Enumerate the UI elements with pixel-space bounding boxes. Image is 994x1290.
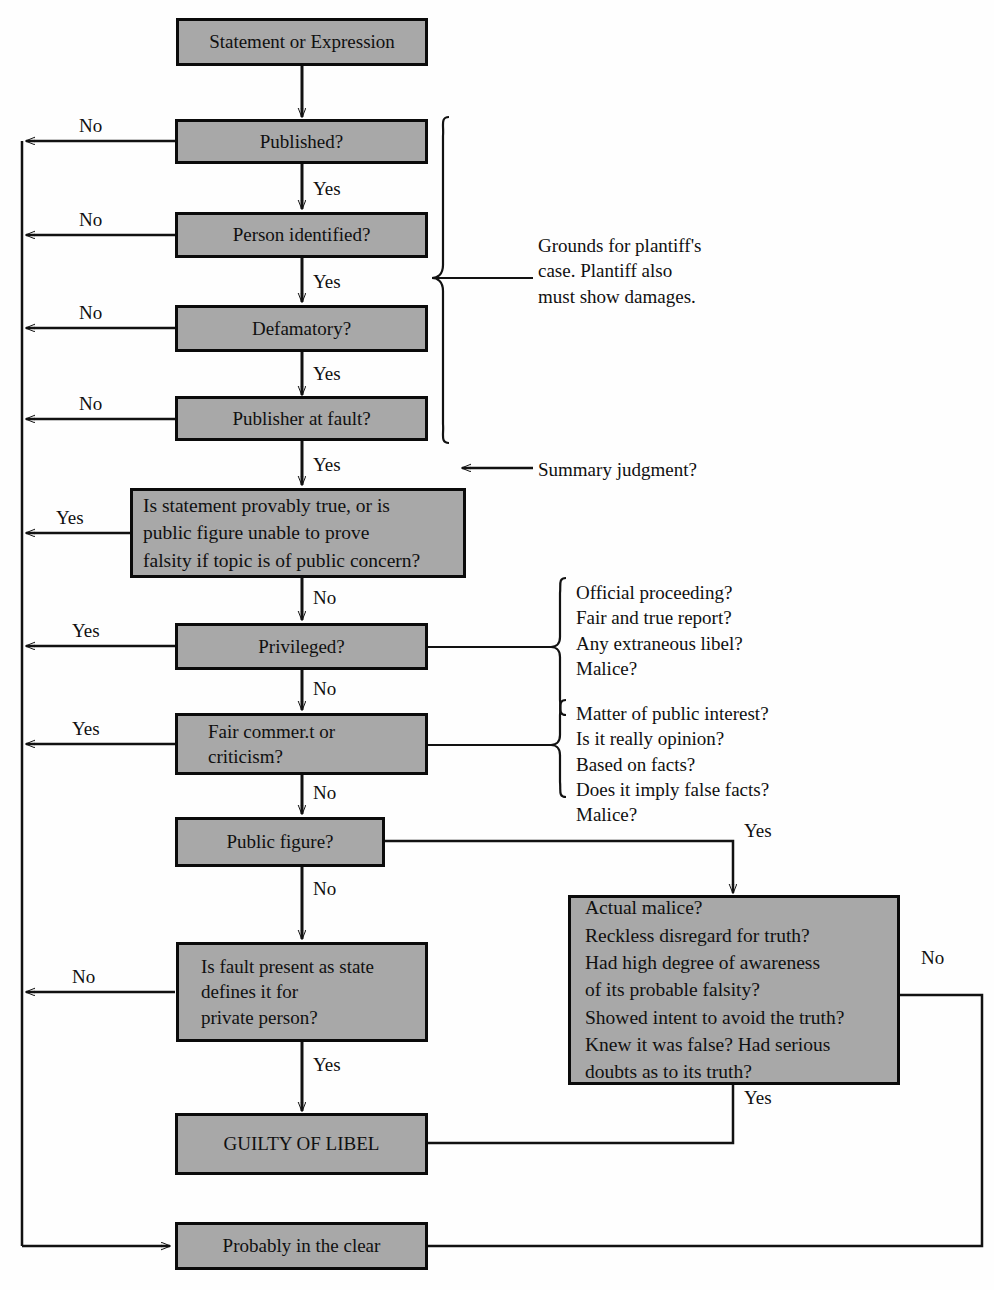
annotation-fair-comment-tests: Matter of public interest? Is it really … xyxy=(576,701,769,827)
node-publisher-at-fault[interactable]: Publisher at fault? xyxy=(175,396,428,441)
node-defamatory[interactable]: Defamatory? xyxy=(175,305,428,352)
edge-label-yes-person: Yes xyxy=(313,269,341,295)
edge-label-no-provably-true: No xyxy=(313,585,336,611)
edge-label-no-state-fault: No xyxy=(72,964,95,990)
node-public-figure-label: Public figure? xyxy=(216,829,343,854)
node-state-fault[interactable]: Is fault present as state defines it for… xyxy=(176,942,428,1042)
annotation-privileged-tests: Official proceeding? Fair and true repor… xyxy=(576,580,743,681)
edge-label-no-privileged: No xyxy=(313,676,336,702)
edge-label-no-public-figure: No xyxy=(313,876,336,902)
connector-lines xyxy=(0,0,994,1290)
annotation-summary-judgment: Summary judgment? xyxy=(538,457,697,482)
node-fair-comment-label: Fair commer.t or criticism? xyxy=(178,719,345,769)
node-publisher-at-fault-label: Publisher at fault? xyxy=(222,406,380,431)
edge-label-no-fair-comment: No xyxy=(313,780,336,806)
edge-label-yes-provably-true: Yes xyxy=(56,505,84,531)
node-actual-malice[interactable]: Actual malice? Reckless disregard for tr… xyxy=(568,895,900,1085)
edge-label-yes-published: Yes xyxy=(313,176,341,202)
node-fair-comment[interactable]: Fair commer.t or criticism? xyxy=(175,713,428,775)
node-published[interactable]: Published? xyxy=(175,119,428,164)
node-probably-clear[interactable]: Probably in the clear xyxy=(175,1222,428,1270)
edge-label-no-malice: No xyxy=(921,945,944,971)
edge-label-no-defamatory: No xyxy=(79,300,102,326)
node-provably-true[interactable]: Is statement provably true, or is public… xyxy=(130,488,466,578)
node-state-fault-label: Is fault present as state defines it for… xyxy=(179,954,384,1029)
flowchart-canvas: Statement or Expression Published? Perso… xyxy=(0,0,994,1290)
node-privileged-label: Privileged? xyxy=(248,634,355,659)
node-probably-clear-label: Probably in the clear xyxy=(213,1233,391,1258)
node-statement[interactable]: Statement or Expression xyxy=(176,18,428,66)
edge-label-yes-malice: Yes xyxy=(744,1085,772,1111)
edge-label-yes-privileged: Yes xyxy=(72,618,100,644)
edge-label-no-published: No xyxy=(79,113,102,139)
edge-label-yes-publisher: Yes xyxy=(313,452,341,478)
annotation-grounds: Grounds for plantiff's case. Plantiff al… xyxy=(538,233,702,309)
node-person-identified[interactable]: Person identified? xyxy=(175,212,428,258)
node-guilty-of-libel-label: GUILTY OF LIBEL xyxy=(214,1131,390,1156)
edge-label-yes-defamatory: Yes xyxy=(313,361,341,387)
node-provably-true-label: Is statement provably true, or is public… xyxy=(133,492,430,574)
edge-label-yes-fair-comment: Yes xyxy=(72,716,100,742)
node-published-label: Published? xyxy=(250,129,353,154)
node-person-identified-label: Person identified? xyxy=(223,222,381,247)
node-defamatory-label: Defamatory? xyxy=(242,316,361,341)
node-statement-label: Statement or Expression xyxy=(199,29,405,54)
edge-label-no-publisher: No xyxy=(79,391,102,417)
edge-label-no-person: No xyxy=(79,207,102,233)
node-guilty-of-libel[interactable]: GUILTY OF LIBEL xyxy=(175,1113,428,1175)
node-public-figure[interactable]: Public figure? xyxy=(175,817,385,867)
node-privileged[interactable]: Privileged? xyxy=(175,623,428,670)
node-actual-malice-label: Actual malice? Reckless disregard for tr… xyxy=(571,894,854,1085)
edge-label-yes-state-fault: Yes xyxy=(313,1052,341,1078)
